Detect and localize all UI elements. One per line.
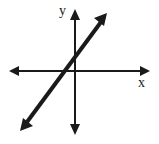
x-axis-label: x bbox=[138, 76, 145, 90]
coordinate-plane-figure: y x bbox=[0, 0, 159, 144]
y-axis-bottom-arrowhead-icon bbox=[70, 124, 80, 135]
x-axis-left-arrowhead-icon bbox=[9, 66, 19, 76]
y-axis-label: y bbox=[59, 4, 66, 18]
coordinate-plane-svg bbox=[0, 0, 159, 144]
y-axis-top-arrowhead-icon bbox=[70, 9, 80, 20]
